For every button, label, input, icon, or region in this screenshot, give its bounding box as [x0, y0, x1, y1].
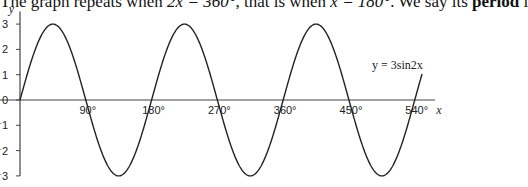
y-tick-label: ⁻2: [0, 145, 8, 157]
y-tick-label: 1: [2, 69, 8, 81]
x-tick-label: 180°: [142, 104, 165, 116]
y-axis-label: y: [8, 2, 15, 16]
equation-label: y = 3sin2x: [372, 58, 423, 72]
x-tick-label: 540°: [405, 104, 428, 116]
y-tick-label: 2: [2, 43, 8, 55]
y-tick-label: 3: [2, 18, 8, 30]
x-tick-label: 360°: [274, 104, 297, 116]
y-tick-label: ⁻3: [0, 170, 8, 182]
y-tick-label: ⁻1: [0, 119, 8, 131]
y-tick-label: 0: [2, 94, 8, 106]
x-axis-label: x: [435, 103, 442, 117]
